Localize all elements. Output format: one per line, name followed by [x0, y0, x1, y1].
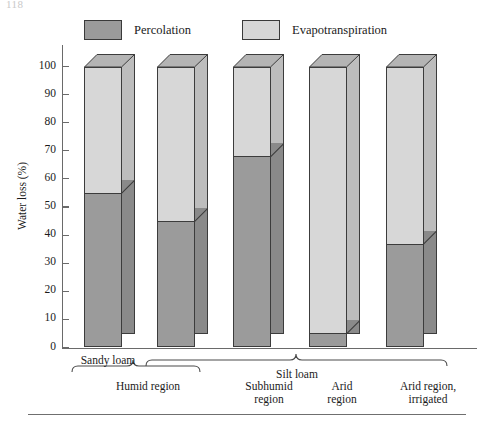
cat-label-line: region [310, 393, 374, 406]
y-tick-label-40: 40 [24, 227, 56, 239]
bar-segment-evapotranspiration [233, 67, 271, 157]
y-tick-60 [62, 178, 69, 179]
bar-column [84, 67, 122, 348]
bar-label-arid-region: Aridregion [310, 380, 374, 406]
cat-label-line: Arid [310, 380, 374, 393]
bar-segment-evapotranspiration [84, 67, 122, 193]
y-tick-label-30: 30 [24, 255, 56, 267]
y-tick-70 [62, 150, 69, 151]
y-tick-0 [62, 347, 69, 348]
bar-label-arid-irrigated: Arid region,irrigated [382, 380, 474, 406]
y-tick-label-10: 10 [24, 311, 56, 323]
bar-segment-percolation [309, 333, 347, 347]
y-tick-label-0: 0 [24, 340, 56, 352]
y-tick-40 [62, 235, 69, 236]
bar-segment-divider [157, 221, 195, 222]
y-tick-50 [62, 206, 69, 207]
y-tick-label-70: 70 [24, 143, 56, 155]
y-tick-90 [62, 94, 69, 95]
y-tick-label-100: 100 [24, 59, 56, 71]
cat-label-line: region [228, 393, 310, 406]
bar-column [309, 67, 347, 348]
bar-segment-percolation [233, 156, 271, 347]
bottom-rule [28, 414, 466, 415]
bar-segment-percolation [157, 221, 195, 347]
plot-area: Water loss (%) 0102030405060708090100 Sa… [0, 0, 494, 428]
figure-container: 118 Percolation Evapotranspiration Water… [0, 0, 494, 428]
bar-segment-divider [386, 244, 424, 245]
bar-segment-percolation [84, 193, 122, 348]
cat-label-line: Subhumid [228, 380, 310, 393]
soil-label-sandy-loam: Sandy loam [63, 354, 153, 367]
y-tick-label-90: 90 [24, 87, 56, 99]
bar-label-subhumid-region: Subhumidregion [228, 380, 310, 406]
cat-label-line: Arid region, [382, 380, 474, 393]
y-tick-label-60: 60 [24, 171, 56, 183]
bar-segment-divider [84, 193, 122, 194]
bar-segment-divider [233, 156, 271, 157]
y-tick-label-20: 20 [24, 283, 56, 295]
y-tick-100 [62, 66, 69, 67]
y-tick-30 [62, 263, 69, 264]
bar-segment-evapotranspiration [309, 67, 347, 334]
y-tick-label-50: 50 [24, 199, 56, 211]
region-label-humid: Humid region [95, 380, 201, 393]
bar-segment-evapotranspiration [386, 67, 424, 244]
y-tick-label-80: 80 [24, 115, 56, 127]
bar-segment-divider [309, 333, 347, 334]
y-axis-line [62, 45, 63, 348]
bar-column [233, 67, 271, 348]
cat-label-line: irrigated [382, 393, 474, 406]
y-tick-10 [62, 319, 69, 320]
bar-segment-percolation [386, 244, 424, 348]
bar-segment-evapotranspiration [157, 67, 195, 222]
y-tick-80 [62, 122, 69, 123]
bar-column [157, 67, 195, 348]
bar-column [386, 67, 424, 348]
y-tick-20 [62, 291, 69, 292]
